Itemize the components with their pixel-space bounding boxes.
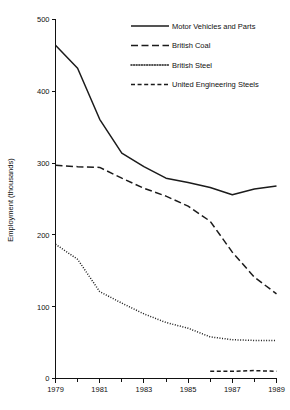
x-axis-tick-label: 1987 [224, 385, 241, 394]
series-layer [56, 45, 277, 371]
x-axis-tick-label: 1983 [136, 385, 153, 394]
y-axis-title-text: Employment (thousands) [6, 158, 15, 242]
y-axis-tick-label: 300 [37, 159, 50, 168]
series-line-1 [56, 45, 277, 194]
chart-legend: Motor Vehicles and PartsBritish CoalBrit… [131, 22, 259, 90]
y-axis-tick-label: 200 [37, 231, 50, 240]
x-axis-tick-label: 1981 [91, 385, 108, 394]
line-chart: 0100200300400500 19791981198319851987198… [0, 0, 290, 410]
y-axis-tick-label: 500 [37, 15, 50, 24]
y-axis-title: Employment (thousands) [6, 158, 15, 242]
x-axis-tick-label: 1989 [268, 385, 285, 394]
x-axis-tick-label: 1979 [47, 385, 64, 394]
chart-container: 0100200300400500 19791981198319851987198… [0, 0, 290, 410]
y-axis-tick-label: 0 [45, 374, 49, 383]
legend-label-4: United Engineering Steels [172, 80, 259, 89]
y-axis-tick-label: 100 [37, 303, 50, 312]
x-axis: 197919811983198519871989 [47, 379, 285, 394]
series-line-4 [210, 371, 276, 372]
y-axis: 0100200300400500 [37, 15, 56, 383]
legend-label-2: British Coal [172, 41, 211, 50]
y-axis-tick-label: 400 [37, 87, 50, 96]
series-line-3 [56, 244, 277, 340]
series-line-2 [56, 165, 277, 294]
legend-label-1: Motor Vehicles and Parts [172, 22, 256, 31]
x-axis-tick-label: 1985 [180, 385, 197, 394]
legend-label-3: British Steel [172, 61, 212, 70]
